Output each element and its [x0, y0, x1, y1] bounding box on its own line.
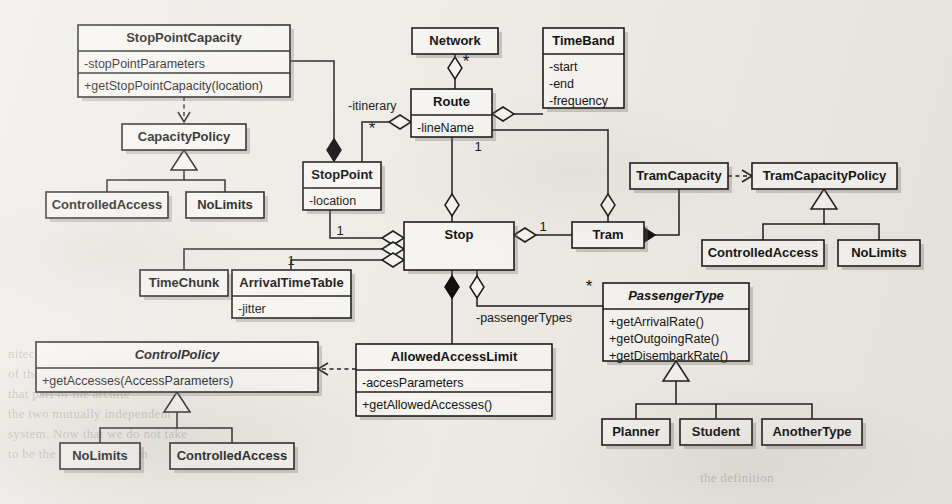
- uml-diagram-canvas: nitecture, the principleof the oo and co…: [0, 0, 952, 504]
- class-name: TramCapacity: [636, 168, 722, 183]
- edge-route-stoppoint-itinerary: [362, 122, 400, 162]
- class-box-allowedaccesslimit[interactable]: AllowedAccessLimit-accesParameters+getAl…: [356, 344, 556, 420]
- class-box-nolimits_tram[interactable]: NoLimits: [838, 240, 924, 270]
- class-box-stop[interactable]: Stop: [404, 222, 518, 274]
- class-box-nolimits_cap[interactable]: NoLimits: [186, 192, 268, 222]
- mult-stop-tram: 1: [539, 219, 546, 234]
- class-box-controlledaccess_tram[interactable]: ControlledAccess: [702, 240, 828, 270]
- uml-diagram-svg: StopPointCapacity-stopPointParameters+ge…: [0, 0, 952, 504]
- class-name: PassengerType: [628, 288, 724, 303]
- class-box-tram[interactable]: Tram: [572, 222, 648, 252]
- class-operation: +getAccesses(AccessParameters): [42, 374, 233, 388]
- class-box-controlledaccess_ctrl[interactable]: ControlledAccess: [170, 443, 298, 473]
- mult-route-itinerary: *: [369, 119, 376, 138]
- class-name: CapacityPolicy: [138, 129, 231, 144]
- class-box-tramcapacitypolicy[interactable]: TramCapacityPolicy: [752, 163, 901, 193]
- edge-tram-tramcapacity: [644, 189, 679, 235]
- class-name: Route: [433, 94, 470, 109]
- class-attribute: -end: [549, 77, 574, 91]
- class-box-student[interactable]: Student: [680, 419, 756, 449]
- class-box-anothertype[interactable]: AnotherType: [762, 419, 866, 449]
- class-name: ControlledAccess: [708, 245, 819, 260]
- class-box-stoppointcapacity[interactable]: StopPointCapacity-stopPointParameters+ge…: [78, 25, 294, 101]
- class-name: AnotherType: [772, 424, 851, 439]
- class-name: StopPointCapacity: [126, 30, 242, 45]
- class-box-controlledaccess_cap[interactable]: ControlledAccess: [46, 192, 172, 222]
- aggregation-diamond-stop-route: [445, 194, 459, 216]
- class-name: Stop: [445, 227, 474, 242]
- lbl-passengertypes: -passengerTypes: [476, 311, 572, 325]
- class-name: ArrivalTimeTable: [239, 275, 343, 290]
- class-box-passengertype[interactable]: PassengerType+getArrivalRate()+getOutgoi…: [603, 283, 753, 365]
- class-operation: +getStopPointCapacity(location): [84, 79, 263, 93]
- class-attribute: -lineName: [417, 121, 474, 135]
- class-attribute: -stopPointParameters: [84, 57, 205, 71]
- class-operation: +getOutgoingRate(): [609, 332, 719, 346]
- class-name: Tram: [592, 227, 623, 242]
- edge-passengertype-anothertype: [716, 404, 812, 419]
- edge-stop-passengertype: [477, 270, 603, 306]
- class-attribute: -start: [549, 60, 578, 74]
- aggregation-diamond-stop-passengertype: [470, 276, 484, 298]
- class-name: TimeChunk: [149, 275, 220, 290]
- class-box-tramcapacity[interactable]: TramCapacity: [630, 163, 732, 193]
- class-name: AllowedAccessLimit: [391, 349, 518, 364]
- class-operation: +getDisembarkRate(): [609, 349, 728, 363]
- composition-diamond-stoppoint: [327, 139, 341, 161]
- class-name: Student: [692, 424, 741, 439]
- edge-capacitypolicy-nolimits: [184, 180, 225, 192]
- class-name: TramCapacityPolicy: [763, 168, 887, 183]
- edge-route-tram: [492, 130, 608, 222]
- mult-route-stop: 1: [474, 139, 481, 154]
- class-box-arrivaltimetable[interactable]: ArrivalTimeTable-jitter: [232, 270, 355, 322]
- mult-stop-passengertype: *: [586, 277, 593, 296]
- class-name: ControlPolicy: [135, 347, 220, 362]
- edge-arrivaltimetable-stop: [291, 260, 393, 270]
- edge-passengertype-student: [676, 404, 716, 419]
- class-name: Planner: [612, 424, 660, 439]
- edge-controlpolicy-nolimits: [100, 412, 177, 443]
- class-box-timeband[interactable]: TimeBand-start-end-frequency: [543, 28, 628, 112]
- edge-tramcapacitypolicy-controlledaccess: [763, 209, 824, 240]
- mult-arrivaltimetable-stop: 1: [287, 253, 294, 268]
- class-name: ControlledAccess: [177, 448, 288, 463]
- class-box-timechunk[interactable]: TimeChunk: [140, 270, 232, 300]
- aggregation-diamond-route-itinerary: [389, 115, 411, 129]
- lbl-itinerary: -itinerary: [348, 99, 397, 113]
- edge-tramcapacitypolicy-nolimits: [824, 224, 879, 240]
- class-attribute: -accesParameters: [362, 376, 463, 390]
- class-attribute: -frequency: [549, 94, 609, 108]
- mult-network-route: *: [463, 52, 470, 71]
- class-box-network[interactable]: Network: [412, 28, 502, 58]
- edge-controlpolicy-controlledaccess: [177, 428, 232, 443]
- class-box-capacitypolicy[interactable]: CapacityPolicy: [122, 124, 250, 154]
- aggregation-diamond-network: [448, 57, 462, 79]
- class-name: Network: [429, 33, 481, 48]
- class-box-stoppoint[interactable]: StopPoint-location: [303, 162, 385, 214]
- class-box-planner[interactable]: Planner: [602, 419, 674, 449]
- aggregation-diamond-stop-arrivaltimetable: [382, 253, 404, 267]
- class-name: NoLimits: [72, 448, 128, 463]
- class-name: StopPoint: [311, 167, 373, 182]
- class-attribute: -location: [309, 194, 356, 208]
- class-attribute: -jitter: [238, 302, 266, 316]
- class-name: NoLimits: [197, 197, 253, 212]
- class-box-route[interactable]: Route-lineName: [411, 89, 496, 141]
- edge-passengertype-planner: [636, 381, 676, 419]
- class-box-controlpolicy[interactable]: ControlPolicy+getAccesses(AccessParamete…: [36, 342, 322, 396]
- class-operation: +getArrivalRate(): [609, 315, 704, 329]
- edge-capacitypolicy-controlledaccess: [107, 170, 184, 192]
- composition-diamond-stop-allowedaccesslimit: [445, 276, 459, 298]
- class-name: TimeBand: [552, 33, 615, 48]
- edge-stoppointcapacity-stoppoint: [290, 61, 334, 150]
- mult-stoppoint-stop: 1: [336, 223, 343, 238]
- class-operation: +getAllowedAccesses(): [362, 398, 492, 412]
- aggregation-diamond-tram-route: [601, 194, 615, 216]
- class-name: NoLimits: [851, 245, 907, 260]
- class-box-nolimits_ctrl[interactable]: NoLimits: [60, 443, 144, 473]
- class-name: ControlledAccess: [52, 197, 163, 212]
